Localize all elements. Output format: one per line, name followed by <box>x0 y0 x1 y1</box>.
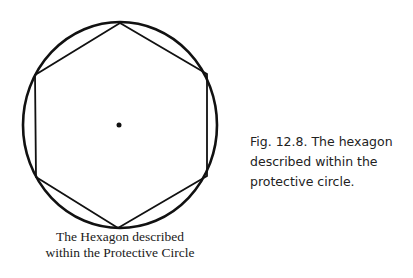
figure-label-line-1: The Hexagon described <box>0 229 240 245</box>
center-point <box>117 123 122 128</box>
figure-caption: Fig. 12.8. The hexagon described within … <box>250 132 413 192</box>
figure-caption-line-3: protective circle. <box>250 172 413 192</box>
figure-caption-line-1: Fig. 12.8. The hexagon <box>250 132 413 152</box>
hexagon-in-circle-figure <box>0 0 240 240</box>
figure-caption-line-2: described within the <box>250 152 413 172</box>
figure-label-line-2: within the Protective Circle <box>0 245 240 261</box>
figure-drawing <box>0 0 240 240</box>
figure-label: The Hexagon described within the Protect… <box>0 229 240 261</box>
